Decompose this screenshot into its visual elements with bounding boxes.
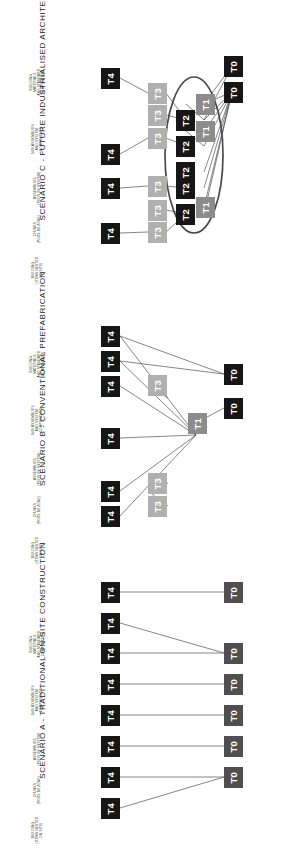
node-t1[interactable]: T1 [196,94,215,115]
node-t4[interactable]: T4 [101,613,120,634]
node-t4[interactable]: T4 [101,674,120,695]
node-t0[interactable]: T0 [224,736,243,757]
node-t4[interactable]: T4 [101,506,120,527]
node-t1[interactable]: T1 [188,413,207,434]
node-t4[interactable]: T4 [101,643,120,664]
node-t4[interactable]: T4 [101,798,120,819]
node-t3[interactable]: T3 [148,200,167,221]
node-t3[interactable]: T3 [148,176,167,197]
node-t0[interactable]: T0 [224,364,243,385]
node-t4[interactable]: T4 [101,351,120,372]
node-t0[interactable]: T0 [224,767,243,788]
node-t0[interactable]: T0 [224,582,243,603]
node-t4[interactable]: T4 [101,68,120,89]
scenario-panel-b: SCENARIO B - CONVENTIONAL PREFABRICATION… [0,278,298,560]
node-t3[interactable]: T3 [148,128,167,149]
node-t4[interactable]: T4 [101,144,120,165]
node-t2[interactable]: T2 [176,178,195,199]
node-t3[interactable]: T3 [148,473,167,494]
node-t1[interactable]: T1 [196,197,215,218]
node-t3[interactable]: T3 [148,105,167,126]
node-t2[interactable]: T2 [176,136,195,157]
node-t4[interactable]: T4 [101,326,120,347]
node-t0[interactable]: T0 [224,643,243,664]
column-header-building: BUILDING (ITEMS NESTED ON SITE) [31,770,43,848]
node-t4[interactable]: T4 [101,705,120,726]
node-t4[interactable]: T4 [101,736,120,757]
node-t0[interactable]: T0 [224,398,243,419]
node-t3[interactable]: T3 [148,83,167,104]
node-t3[interactable]: T3 [148,496,167,517]
node-t4[interactable]: T4 [101,178,120,199]
node-t3[interactable]: T3 [148,222,167,243]
scenario-panel-a: SCENARIO A - TRADITIONAL ON-SITE CONSTRU… [0,560,298,839]
node-t2[interactable]: T2 [176,110,195,131]
node-t4[interactable]: T4 [101,481,120,502]
node-t0[interactable]: T0 [224,82,243,103]
node-t4[interactable]: T4 [101,767,120,788]
node-t0[interactable]: T0 [224,56,243,77]
node-t0[interactable]: T0 [224,674,243,695]
node-t4[interactable]: T4 [101,223,120,244]
node-t2[interactable]: T2 [176,204,195,225]
node-t4[interactable]: T4 [101,376,120,397]
node-t4[interactable]: T4 [101,582,120,603]
node-t1[interactable]: T1 [196,121,215,142]
node-t4[interactable]: T4 [101,428,120,449]
scenario-panel-c: SCENARIO C - FUTURE INDUSTRIALISED ARCHI… [0,0,298,278]
node-t0[interactable]: T0 [224,705,243,726]
node-t3[interactable]: T3 [148,375,167,396]
